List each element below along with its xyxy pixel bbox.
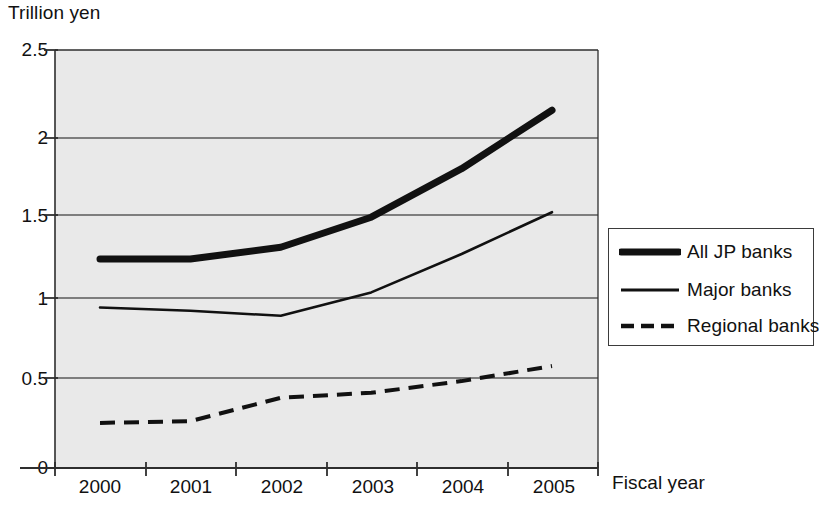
legend-item-regional-banks: Regional banks [609, 309, 813, 343]
thick-solid-line-swatch [619, 245, 681, 259]
legend-label-major-banks: Major banks [687, 279, 792, 301]
legend-label-regional-banks: Regional banks [687, 315, 819, 337]
thin-solid-line-swatch [619, 283, 681, 297]
chart-legend: All JP banks Major banks Regional banks [608, 228, 814, 346]
legend-item-major-banks: Major banks [609, 273, 813, 307]
legend-label-all-jp-banks: All JP banks [687, 241, 792, 263]
legend-item-all-jp-banks: All JP banks [609, 235, 813, 269]
dashed-line-swatch [619, 319, 681, 333]
